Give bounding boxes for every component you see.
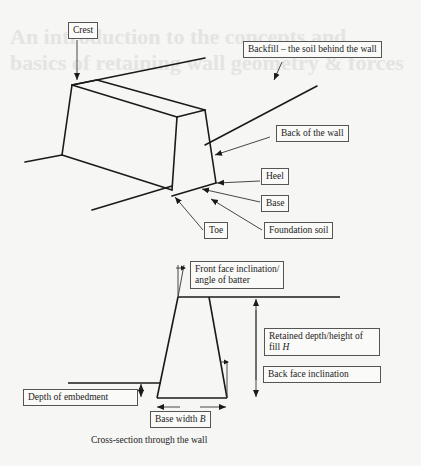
cross-section-caption: Cross-section through the wall <box>91 435 207 445</box>
retained-depth-prefix: fill <box>269 342 282 352</box>
toe-label: Toe <box>204 222 228 239</box>
back-face-inclination-label: Back face inclination <box>263 366 381 383</box>
retained-depth-line-2: fill H <box>269 342 375 353</box>
back-of-wall-label: Back of the wall <box>276 125 349 142</box>
front-face-line-1: Front face inclination/ <box>195 264 279 275</box>
perspective-wall <box>25 58 317 210</box>
depth-of-embedment-label: Depth of embedment <box>23 389 138 406</box>
backfill-label: Backfill – the soil behind the wall <box>243 41 382 58</box>
foundation-soil-label: Foundation soil <box>264 222 333 239</box>
front-face-inclination-label: Front face inclination/ angle of batter <box>190 261 284 289</box>
front-face-line-2: angle of batter <box>195 275 279 286</box>
height-symbol-h: H <box>282 342 289 352</box>
perspective-leader-arrows <box>77 40 282 230</box>
base-width-symbol-b: B <box>200 414 206 424</box>
base-width-prefix: Base width <box>155 414 200 424</box>
retained-depth-line-1: Retained depth/height of <box>269 331 375 342</box>
heel-label: Heel <box>261 168 289 185</box>
crest-label: Crest <box>68 22 98 39</box>
base-label: Base <box>261 195 289 212</box>
base-width-label: Base width B <box>150 411 211 428</box>
retained-depth-label: Retained depth/height of fill H <box>264 328 380 356</box>
